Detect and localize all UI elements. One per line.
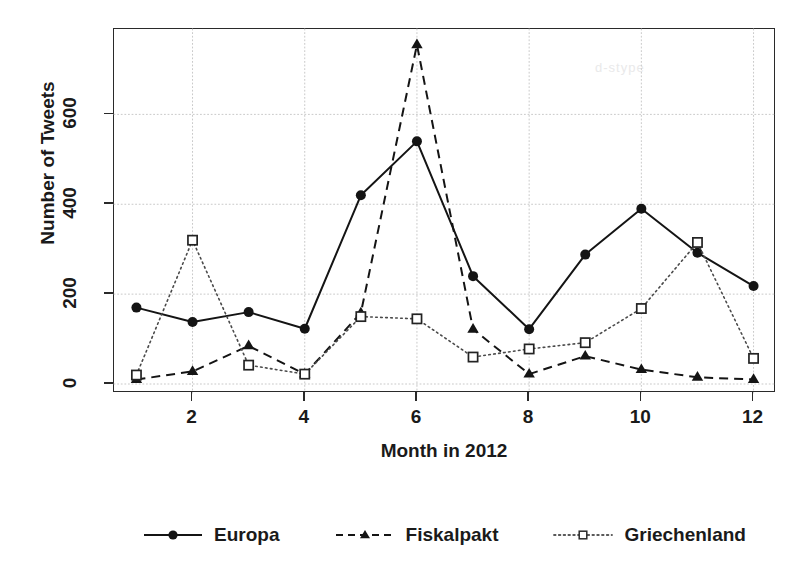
data-point-marker — [300, 324, 310, 334]
legend-item-europa[interactable]: Europa — [142, 524, 279, 546]
data-point-marker — [412, 136, 422, 146]
data-point-marker — [244, 307, 254, 317]
data-point-marker — [411, 39, 422, 49]
data-point-marker — [244, 361, 253, 370]
x-axis-tick — [640, 392, 642, 401]
y-axis-tick — [104, 113, 113, 115]
data-point-marker — [525, 344, 534, 353]
y-axis-tick — [104, 202, 113, 204]
legend-key-solid-circle-icon — [142, 524, 204, 546]
data-point-marker — [356, 190, 366, 200]
x-axis-tick — [415, 392, 417, 401]
x-axis-tick-label: 2 — [162, 406, 222, 428]
data-point-marker — [636, 204, 646, 214]
data-point-marker — [243, 340, 254, 350]
data-point-marker — [356, 312, 365, 321]
data-point-marker — [468, 271, 478, 281]
y-axis-tick-label: 600 — [59, 85, 81, 141]
plot-area — [113, 28, 775, 392]
x-axis-tick-label: 10 — [610, 406, 670, 428]
x-axis-tick-label: 4 — [274, 406, 334, 428]
y-axis-label: Number of Tweets — [37, 53, 59, 273]
legend-key-dotted-square-icon — [552, 524, 614, 546]
data-point-marker — [637, 304, 646, 313]
x-axis-tick-label: 8 — [498, 406, 558, 428]
x-axis-tick-label: 6 — [386, 406, 446, 428]
legend-label-europa: Europa — [214, 524, 279, 546]
legend-key-dashed-triangle-icon — [334, 524, 396, 546]
data-point-marker — [467, 323, 478, 333]
chart-figure: d-stype Number of Tweets Month in 2012 E… — [0, 0, 812, 576]
series-line-fiskalpakt — [136, 45, 753, 380]
data-point-marker — [300, 370, 309, 379]
x-axis-label: Month in 2012 — [113, 440, 775, 462]
legend: Europa Fiskalpakt Griechenland — [113, 512, 775, 558]
y-axis-tick-label: 200 — [59, 265, 81, 321]
data-point-marker — [468, 352, 477, 361]
y-axis-tick-label: 0 — [59, 355, 81, 411]
data-point-marker — [188, 317, 198, 327]
data-point-marker — [748, 373, 759, 383]
y-axis-tick — [104, 292, 113, 294]
data-point-marker — [749, 281, 759, 291]
data-point-marker — [580, 250, 590, 260]
legend-label-fiskalpakt: Fiskalpakt — [406, 524, 499, 546]
data-point-marker — [580, 350, 591, 360]
data-point-marker — [188, 236, 197, 245]
data-point-marker — [524, 324, 534, 334]
y-axis-tick-label: 400 — [59, 175, 81, 231]
legend-item-griechenland[interactable]: Griechenland — [552, 524, 745, 546]
plot-canvas — [114, 29, 776, 393]
data-point-marker — [132, 370, 141, 379]
x-axis-tick — [191, 392, 193, 401]
legend-label-griechenland: Griechenland — [624, 524, 745, 546]
x-axis-tick — [752, 392, 754, 401]
data-point-marker — [749, 354, 758, 363]
data-point-marker — [412, 314, 421, 323]
legend-item-fiskalpakt[interactable]: Fiskalpakt — [334, 524, 499, 546]
data-point-marker — [581, 338, 590, 347]
x-axis-tick-label: 12 — [723, 406, 783, 428]
y-axis-tick — [104, 382, 113, 384]
series-line-europa — [136, 141, 753, 329]
data-point-marker — [693, 238, 702, 247]
x-axis-tick — [527, 392, 529, 401]
x-axis-tick — [303, 392, 305, 401]
data-point-marker — [131, 303, 141, 313]
